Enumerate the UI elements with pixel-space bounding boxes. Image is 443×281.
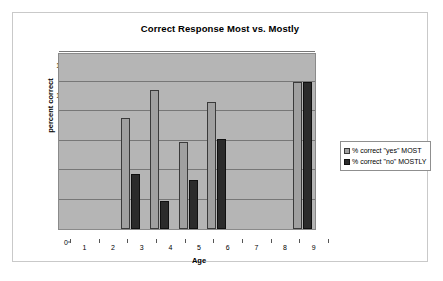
chart-legend: % correct "yes" MOST% correct "no" MOSTL…: [340, 141, 431, 171]
bar: [217, 139, 226, 229]
x-axis-title: Age: [70, 256, 328, 265]
bar: [150, 90, 159, 229]
legend-swatch-icon: [344, 148, 350, 154]
bar: [293, 82, 302, 230]
x-axis-tick-mark: [328, 239, 329, 243]
legend-label: % correct "no" MOSTLY: [352, 156, 426, 167]
bar: [121, 118, 130, 229]
x-axis-tick-label: 2: [111, 244, 115, 251]
x-axis-tick-mark: [185, 239, 186, 243]
x-axis-tick-mark: [156, 239, 157, 243]
legend-swatch-icon: [344, 159, 350, 165]
bars-layer: [59, 54, 315, 229]
legend-item: % correct "yes" MOST: [344, 145, 426, 156]
x-axis-tick-mark: [99, 239, 100, 243]
x-axis-tick-label: 3: [140, 244, 144, 251]
x-axis-tick-mark: [127, 239, 128, 243]
bar: [189, 180, 198, 229]
legend-item: % correct "no" MOSTLY: [344, 156, 426, 167]
x-axis-tick-label: 1: [82, 244, 86, 251]
bar: [131, 174, 140, 229]
bar: [303, 82, 312, 230]
y-axis-tick-label: 0: [42, 239, 68, 246]
x-axis-tick-label: 7: [254, 244, 258, 251]
x-axis-tick-mark: [70, 239, 71, 243]
x-axis-tick-label: 6: [226, 244, 230, 251]
gridline: [59, 51, 315, 52]
x-axis-tick-label: 4: [168, 244, 172, 251]
x-axis-tick-mark: [242, 239, 243, 243]
plot-area: [58, 53, 316, 230]
x-axis-tick-mark: [271, 239, 272, 243]
bar: [179, 142, 188, 229]
bar: [160, 201, 169, 229]
x-axis-tick-mark: [213, 239, 214, 243]
x-axis-tick-label: 9: [312, 244, 316, 251]
x-axis-tick-mark: [299, 239, 300, 243]
legend-label: % correct "yes" MOST: [352, 145, 422, 156]
bar: [207, 102, 216, 229]
chart-title: Correct Response Most vs. Mostly: [13, 23, 427, 34]
x-axis-tick-label: 8: [283, 244, 287, 251]
chart-frame: Correct Response Most vs. Mostly percent…: [12, 12, 428, 262]
x-axis-tick-label: 5: [197, 244, 201, 251]
